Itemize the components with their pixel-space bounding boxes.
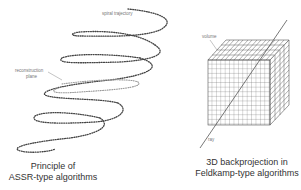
reconstruction-plane-leader [48,72,62,80]
label-reconstruction-plane-2: plane [26,74,38,79]
caption-left: Principle of ASSR-type algorithms [3,161,103,183]
diagram-canvas: spiral trajectory reconstruction plane [0,0,301,190]
caption-right-line1: 3D backprojection in [192,157,301,168]
label-reconstruction-plane-1: reconstruction [15,68,44,73]
label-volume: volume [202,34,217,39]
voxel-cube [208,40,289,125]
label-spiral-trajectory: spiral trajectory [102,11,133,16]
caption-right-line2: Feldkamp-type algorithms [192,168,301,179]
caption-right: 3D backprojection in Feldkamp-type algor… [192,157,301,179]
volume-leader [210,40,217,50]
caption-left-line2: ASSR-type algorithms [3,172,103,183]
caption-left-line1: Principle of [3,161,103,172]
label-ray: ray [208,137,215,142]
